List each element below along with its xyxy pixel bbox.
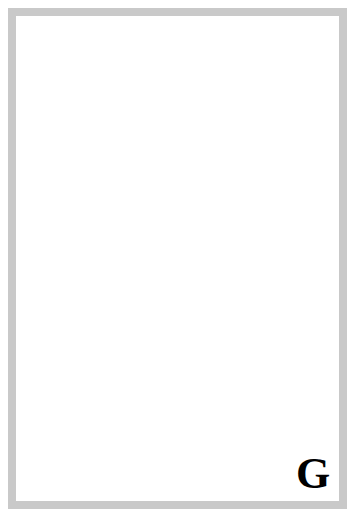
figure-frame-border	[8, 8, 347, 509]
figure-container: 6 1 5 2 4 3 G	[0, 0, 355, 517]
panel-label-g: G	[296, 452, 330, 496]
